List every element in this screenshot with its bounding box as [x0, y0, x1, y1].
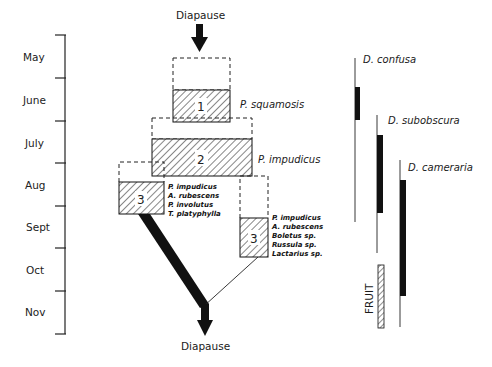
month-label-june: June	[22, 94, 46, 106]
month-label-oct: Oct	[26, 264, 44, 276]
fruit-label: FRUIT	[363, 283, 375, 314]
diapause-bottom-label: Diapause	[181, 340, 230, 352]
generation-1: 1 P. squamosis	[173, 58, 304, 122]
species-label: D. cameraria	[408, 162, 473, 173]
minor-path	[204, 257, 258, 306]
generation-2-host: P. impudicus	[258, 154, 320, 165]
host-label: P. involutus	[168, 201, 213, 209]
time-axis: May June July Aug Sept Oct Nov	[22, 35, 66, 334]
month-label-sept: Sept	[26, 221, 50, 233]
month-label-july: July	[24, 137, 44, 149]
host-label: Russula sp.	[272, 241, 317, 249]
species-d-cameraria: D. cameraria	[400, 160, 473, 327]
generation-2: 2 P. impudicus	[152, 118, 320, 176]
diapause-top-label: Diapause	[176, 9, 225, 21]
generation-1-potential-window	[173, 58, 230, 90]
fruit-bar: FRUIT	[363, 265, 384, 328]
major-path	[138, 214, 209, 308]
species-label: D. confusa	[363, 54, 416, 65]
month-label-may: May	[23, 51, 45, 63]
generation-3-right-potential-window	[240, 176, 268, 218]
diapause-top: Diapause	[176, 9, 225, 52]
species-label: D. subobscura	[388, 115, 460, 126]
generation-1-number: 1	[197, 100, 205, 114]
species-bars: D. confusa D. subobscura D. cameraria FR…	[355, 54, 473, 328]
phenology-diagram: May June July Aug Sept Oct Nov Diapause …	[0, 0, 492, 367]
down-arrow-icon	[197, 304, 213, 336]
host-label: Boletus sp.	[272, 232, 316, 240]
host-label: P. impudicus	[272, 214, 321, 222]
species-d-confusa: D. confusa	[355, 54, 416, 222]
month-label-aug: Aug	[25, 179, 46, 191]
generation-3-right: 3 P. impudicus A. rubescens Boletus sp. …	[240, 176, 323, 258]
host-label: A. rubescens	[271, 223, 323, 231]
generation-2-number: 2	[197, 153, 205, 167]
species-d-subobscura: D. subobscura	[377, 115, 460, 253]
generation-3-right-number: 3	[250, 232, 258, 246]
month-label-nov: Nov	[25, 306, 46, 318]
generation-3-left-number: 3	[137, 193, 145, 207]
generation-1-host: P. squamosis	[240, 99, 304, 110]
host-label: P. impudicus	[168, 183, 217, 191]
host-label: A. rubescens	[167, 192, 219, 200]
host-label: Lactarius sp.	[272, 250, 323, 258]
down-arrow-icon	[191, 24, 208, 52]
host-label: T. platyphylla	[168, 210, 221, 218]
